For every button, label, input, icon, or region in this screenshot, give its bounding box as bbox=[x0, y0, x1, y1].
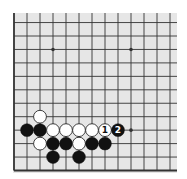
black-stone-move-2: 2 bbox=[112, 124, 125, 137]
black-stone bbox=[99, 137, 112, 150]
white-stone-disc bbox=[60, 124, 73, 137]
white-stone-move-1: 1 bbox=[99, 124, 112, 137]
black-stone-disc bbox=[34, 124, 47, 137]
white-stone-disc bbox=[73, 137, 86, 150]
black-stone-disc bbox=[73, 151, 86, 164]
star-point bbox=[129, 128, 133, 132]
white-stone-disc bbox=[34, 110, 47, 123]
white-stone bbox=[60, 124, 73, 137]
black-stone bbox=[34, 124, 47, 137]
white-stone bbox=[47, 124, 60, 137]
white-stone-disc bbox=[73, 124, 86, 137]
black-stone-disc bbox=[60, 137, 73, 150]
black-stone bbox=[47, 137, 60, 150]
black-stone bbox=[47, 151, 60, 164]
white-stone-disc bbox=[86, 124, 99, 137]
black-stone-disc bbox=[86, 137, 99, 150]
black-stone-disc bbox=[47, 151, 60, 164]
white-stone bbox=[34, 137, 47, 150]
star-point bbox=[51, 48, 55, 52]
move-number-label: 2 bbox=[115, 125, 121, 135]
black-stone-disc bbox=[21, 124, 34, 137]
black-stone bbox=[86, 137, 99, 150]
move-number-label: 1 bbox=[102, 125, 108, 135]
black-stone-disc bbox=[99, 137, 112, 150]
black-stone bbox=[60, 137, 73, 150]
white-stone-disc bbox=[47, 124, 60, 137]
white-stone bbox=[34, 110, 47, 123]
black-stone bbox=[73, 151, 86, 164]
go-board: 12 bbox=[0, 0, 187, 179]
white-stone-disc bbox=[34, 137, 47, 150]
black-stone-disc bbox=[47, 137, 60, 150]
white-stone bbox=[73, 137, 86, 150]
white-stone bbox=[86, 124, 99, 137]
white-stone bbox=[73, 124, 86, 137]
star-point bbox=[129, 48, 133, 52]
black-stone bbox=[21, 124, 34, 137]
